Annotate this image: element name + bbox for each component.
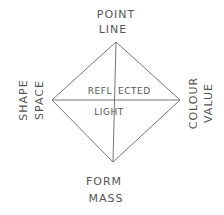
bottom-label-line1: FORM bbox=[86, 175, 122, 188]
top-label-line2: LINE bbox=[99, 23, 128, 36]
diamond-diagram: POINT LINE FORM MASS SHAPE SPACE COLOUR … bbox=[0, 0, 224, 215]
top-label-line1: POINT bbox=[97, 8, 135, 21]
vertical-axis bbox=[113, 42, 116, 162]
bottom-label-line2: MASS bbox=[89, 192, 124, 205]
right-label-line1: COLOUR bbox=[187, 77, 200, 129]
left-label-line1: SHAPE bbox=[17, 79, 30, 120]
right-label-line2: VALUE bbox=[202, 83, 215, 123]
center-label-ected: ECTED bbox=[118, 86, 151, 96]
center-label-refl: REFL bbox=[88, 86, 112, 96]
center-label-light: LIGHT bbox=[94, 107, 123, 117]
left-label-line2: SPACE bbox=[33, 80, 46, 120]
